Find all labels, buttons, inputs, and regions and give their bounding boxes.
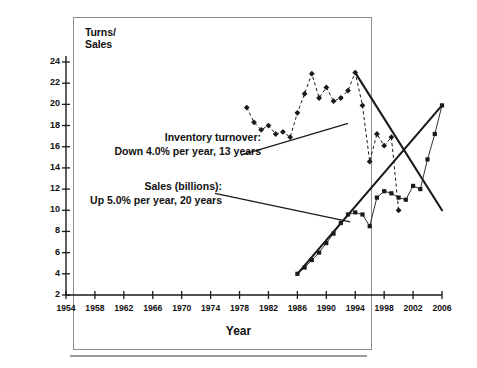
x-tick-label: 1966 [137,303,169,313]
data-point-marker [375,196,379,200]
data-point-marker [302,91,308,97]
data-point-marker [396,207,402,213]
x-tick-label: 2006 [426,303,458,313]
y-tick-label: 8 [32,225,60,235]
data-point-marker [425,157,429,161]
x-tick-label: 2002 [397,303,429,313]
data-point-marker [374,131,380,137]
data-point-marker [323,85,329,91]
x-tick-label: 1998 [368,303,400,313]
y-tick-label: 12 [32,183,60,193]
data-point-marker [411,184,415,188]
data-point-marker [294,110,300,116]
data-point-marker [367,159,373,165]
data-point-marker [397,196,401,200]
chart-screenshot: Turns/ Sales Inventory turnover: Down 4.… [0,0,477,368]
x-tick-label: 1986 [281,303,313,313]
x-tick-label: 1974 [195,303,227,313]
y-tick-label: 2 [32,289,60,299]
data-point-marker [338,95,344,101]
data-point-marker [316,95,322,101]
data-point-marker [389,191,393,195]
data-point-marker [433,132,437,136]
data-point-marker [360,212,364,216]
x-tick-label: 1958 [79,303,111,313]
y-tick-label: 4 [32,268,60,278]
x-axis-title: Year [0,324,477,338]
trendline-turnover-trend-down [355,73,442,211]
x-tick-label: 1994 [339,303,371,313]
y-tick-label: 22 [32,77,60,87]
x-tick-label: 1990 [310,303,342,313]
data-point-marker [382,189,386,193]
data-point-marker [266,123,272,129]
y-tick-label: 16 [32,141,60,151]
data-point-marker [360,103,366,109]
y-tick-label: 14 [32,162,60,172]
data-point-marker [244,105,250,111]
data-point-marker [280,129,286,135]
x-tick-label: 1970 [166,303,198,313]
data-point-marker [309,71,315,77]
y-tick-label: 10 [32,204,60,214]
data-point-marker [353,210,357,214]
data-point-marker [418,187,422,191]
series-line-inventory-turnover [247,73,399,211]
data-point-marker [331,98,337,104]
annotation-leader-line-sales-billions [215,193,350,222]
y-tick-label: 20 [32,98,60,108]
bottom-divider-rule [70,355,367,357]
x-tick-label: 1982 [252,303,284,313]
x-tick-label: 1962 [108,303,140,313]
data-point-marker [404,198,408,202]
x-tick-label: 1978 [224,303,256,313]
y-tick-label: 6 [32,247,60,257]
y-tick-label: 24 [32,56,60,66]
x-tick-label: 1954 [50,303,82,313]
data-point-marker [368,224,372,228]
y-tick-label: 18 [32,120,60,130]
